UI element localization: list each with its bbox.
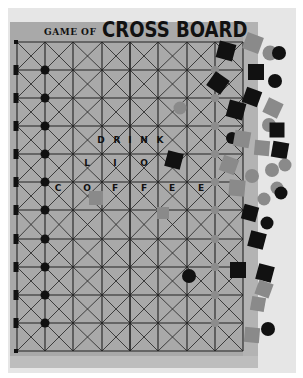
gray-square-piece[interactable]: [254, 140, 270, 156]
black-square-piece[interactable]: [230, 262, 246, 278]
edge-marker: [14, 318, 19, 328]
gray-square-piece[interactable]: [244, 327, 260, 343]
edge-marker: [14, 93, 19, 103]
gray-dot: [211, 150, 219, 158]
black-circle-piece[interactable]: [261, 217, 274, 230]
gray-square-piece[interactable]: [89, 191, 103, 205]
edge-marker: [14, 234, 19, 244]
edge-marker: [14, 177, 19, 187]
black-circle-piece[interactable]: [272, 46, 286, 60]
gray-circle-piece[interactable]: [174, 102, 187, 115]
slogan-letter: E: [198, 183, 204, 193]
black-dot: [41, 94, 50, 103]
gray-dot: [211, 291, 219, 299]
gray-circle-piece[interactable]: [265, 163, 279, 177]
gray-square-piece[interactable]: [157, 207, 169, 219]
gray-circle-piece[interactable]: [245, 169, 259, 183]
black-square-piece[interactable]: [248, 64, 264, 80]
black-square-piece[interactable]: [270, 123, 285, 138]
slogan-letter: F: [112, 183, 118, 193]
gray-square-piece[interactable]: [250, 296, 266, 312]
edge-marker: [14, 121, 19, 131]
black-dot: [41, 319, 50, 328]
gray-square-piece[interactable]: [228, 179, 245, 196]
gray-dot: [211, 263, 219, 271]
gray-dot: [211, 122, 219, 130]
black-dot: [41, 206, 50, 215]
black-circle-piece[interactable]: [182, 269, 196, 283]
slogan-letter: I: [113, 158, 116, 168]
slogan-letter: K: [157, 135, 164, 145]
gray-circle-piece[interactable]: [279, 159, 292, 172]
gray-square-piece[interactable]: [233, 130, 252, 149]
slogan-letter: N: [140, 135, 148, 145]
slogan-letter: D: [97, 135, 104, 145]
black-dot: [41, 178, 50, 187]
board-grid: [0, 0, 303, 378]
edge-marker: [14, 40, 18, 44]
gray-dot: [211, 206, 219, 214]
black-dot: [41, 263, 50, 272]
black-circle-piece[interactable]: [261, 322, 275, 336]
black-circle-piece[interactable]: [268, 74, 282, 88]
edge-marker: [14, 149, 19, 159]
slogan-letter: O: [140, 158, 148, 168]
slogan-letter: L: [84, 158, 90, 168]
edge-marker: [14, 205, 19, 215]
edge-marker: [14, 349, 18, 353]
edge-marker: [14, 262, 19, 272]
black-square-piece[interactable]: [271, 141, 290, 160]
black-dot: [41, 66, 50, 75]
slogan-letter: I: [128, 135, 131, 145]
edge-marker: [14, 290, 19, 300]
slogan-letter: R: [114, 135, 121, 145]
black-dot: [41, 291, 50, 300]
edge-marker: [14, 65, 19, 75]
black-dot: [41, 235, 50, 244]
gray-dot: [211, 178, 219, 186]
gray-dot: [211, 235, 219, 243]
gray-dot: [211, 94, 219, 102]
black-circle-piece[interactable]: [275, 187, 288, 200]
slogan-letter: F: [141, 183, 147, 193]
gray-dot: [211, 319, 219, 327]
slogan-letter: E: [169, 183, 175, 193]
black-dot: [41, 122, 50, 131]
slogan-letter: C: [55, 183, 62, 193]
black-dot: [41, 150, 50, 159]
gray-circle-piece[interactable]: [258, 193, 271, 206]
